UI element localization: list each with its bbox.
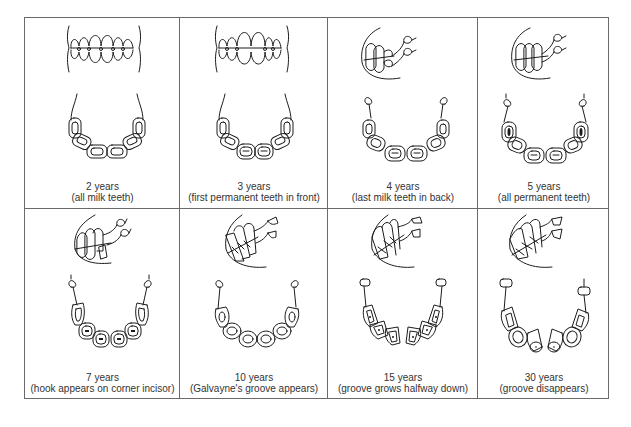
stage-cell-5-years: 5 years (all permanent teeth) — [478, 18, 610, 208]
incisor-arch-icon — [358, 277, 448, 362]
incisor-arch-icon — [500, 98, 590, 173]
side-view-teeth-icon — [506, 213, 576, 275]
stage-description: (Galvayne's groove appears) — [180, 383, 328, 394]
stage-description: (groove disappears) — [478, 383, 610, 394]
stage-age: 15 years — [328, 372, 478, 383]
stage-caption: 4 years (last milk teeth in back) — [328, 181, 478, 203]
stage-cell-15-years: 15 years (groove grows halfway down) — [328, 209, 478, 399]
stage-age: 5 years — [478, 181, 610, 192]
side-view-teeth-icon — [508, 26, 568, 86]
stage-age: 30 years — [478, 372, 610, 383]
stage-caption: 5 years (all permanent teeth) — [478, 181, 610, 203]
stage-age: 4 years — [328, 181, 478, 192]
stage-cell-4-years: 4 years (last milk teeth in back) — [328, 18, 478, 208]
stage-description: (hook appears on corner incisor) — [25, 383, 180, 394]
stage-description: (last milk teeth in back) — [328, 192, 478, 203]
stage-cell-30-years: 30 years (groove disappears) — [478, 209, 610, 399]
incisor-arch-icon — [67, 90, 147, 165]
stage-caption: 2 years (all milk teeth) — [25, 181, 180, 203]
front-view-teeth-icon — [213, 24, 293, 74]
incisor-arch-icon — [215, 90, 295, 165]
stage-age: 3 years — [180, 181, 328, 192]
incisor-arch-icon — [65, 279, 155, 364]
stage-cell-7-years: 7 years (hook appears on corner incisor) — [25, 209, 180, 399]
stage-age: 2 years — [25, 181, 180, 192]
side-view-teeth-icon — [368, 213, 438, 275]
dental-age-grid: 2 years (all milk teeth) 3 years (first … — [24, 17, 609, 399]
stage-caption: 15 years (groove grows halfway down) — [328, 372, 478, 394]
incisor-arch-icon — [361, 98, 451, 173]
incisor-arch-icon — [212, 279, 302, 364]
stage-caption: 30 years (groove disappears) — [478, 372, 610, 394]
incisor-arch-icon — [498, 277, 593, 365]
stage-age: 10 years — [180, 372, 328, 383]
front-view-teeth-icon — [65, 24, 145, 74]
stage-caption: 7 years (hook appears on corner incisor) — [25, 372, 180, 394]
stage-description: (all milk teeth) — [25, 192, 180, 203]
side-view-teeth-icon — [358, 26, 418, 86]
stage-cell-2-years: 2 years (all milk teeth) — [25, 18, 180, 208]
stage-description: (all permanent teeth) — [478, 192, 610, 203]
stage-age: 7 years — [25, 372, 180, 383]
stage-caption: 10 years (Galvayne's groove appears) — [180, 372, 328, 394]
stage-description: (first permanent teeth in front) — [180, 192, 328, 203]
stage-cell-10-years: 10 years (Galvayne's groove appears) — [180, 209, 328, 399]
side-view-teeth-icon — [222, 213, 292, 275]
side-view-teeth-icon — [71, 213, 161, 273]
stage-cell-3-years: 3 years (first permanent teeth in front) — [180, 18, 328, 208]
stage-caption: 3 years (first permanent teeth in front) — [180, 181, 328, 203]
stage-description: (groove grows halfway down) — [328, 383, 478, 394]
